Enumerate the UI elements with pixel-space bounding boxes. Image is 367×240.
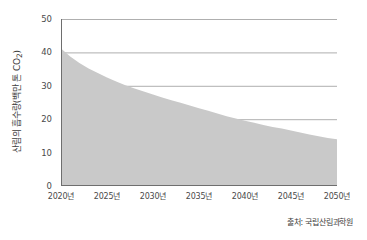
x-axis-tick-label: 2030년 [140, 190, 166, 201]
y-axis-tick-label: 10 [41, 148, 52, 158]
source-note: 출처: 국립산림과학원 [287, 216, 353, 227]
x-axis-tick-label: 2040년 [232, 190, 258, 201]
y-axis-tick-label: 20 [41, 114, 52, 124]
forest-carbon-absorption-chart: 산림의 흡수량(백만 톤 CO2) 01020304050 2020년2025년… [0, 0, 367, 240]
x-axis-tick-label: 2035년 [186, 190, 212, 201]
y-axis-tick-label: 30 [41, 81, 52, 91]
x-axis-tick-labels: 2020년2025년2030년2035년2040년2045년2050년 [61, 190, 337, 204]
x-axis-tick-label: 2050년 [324, 190, 350, 201]
area-chart-svg [61, 19, 337, 186]
x-axis-tick-label: 2045년 [278, 190, 304, 201]
y-axis-tick-label: 50 [41, 14, 52, 24]
x-axis-tick-label: 2025년 [94, 190, 120, 201]
area-series-forest-absorption [61, 48, 337, 186]
plot-area [61, 19, 337, 186]
y-axis-tick-labels: 01020304050 [0, 19, 56, 186]
x-axis-tick-label: 2020년 [48, 190, 74, 201]
y-axis-tick-label: 40 [41, 47, 52, 57]
